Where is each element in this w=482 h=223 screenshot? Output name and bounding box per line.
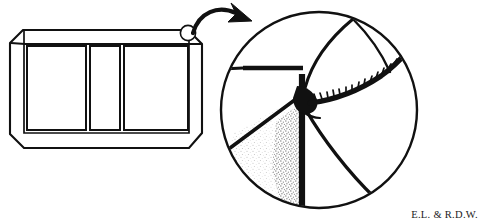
- figure-drawing: [0, 0, 482, 223]
- overview-box-rim-lip: [11, 43, 201, 44]
- signature-credit: E.L. & R.D.W.: [411, 209, 478, 220]
- technical-illustration-figure: E.L. & R.D.W.: [0, 0, 482, 223]
